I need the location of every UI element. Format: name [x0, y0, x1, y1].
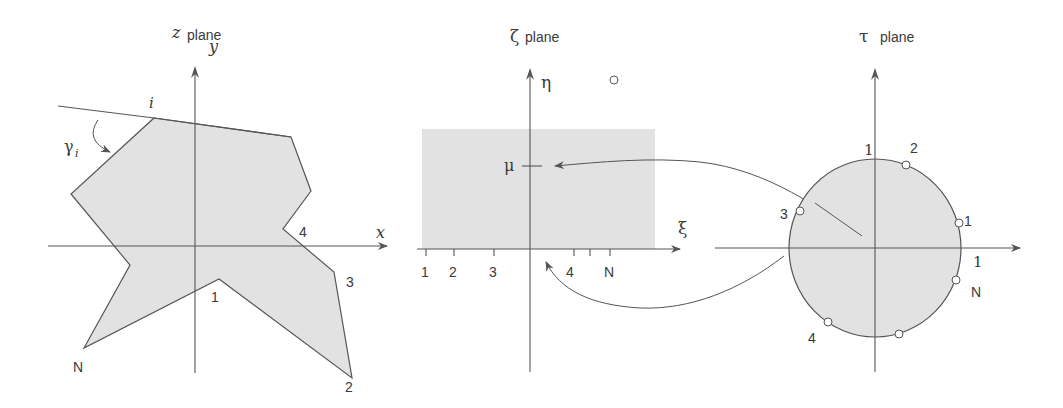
- z-plane-panel: z plane y x i γ i 1 2 3 4 N: [48, 23, 387, 395]
- eta-axis-label: η: [541, 72, 551, 92]
- tau-vertex-marker-4: [824, 318, 832, 326]
- polygon-region: [71, 118, 352, 378]
- tangent-line: [58, 106, 154, 118]
- unit-label-top: 1: [864, 141, 874, 159]
- tau-vertex-marker-1: [955, 219, 963, 227]
- unit-label-right: 1: [973, 253, 983, 271]
- zeta-tick-label-2: 2: [449, 264, 457, 280]
- mu-label: μ: [504, 156, 514, 175]
- z-vertex-2: 2: [345, 379, 353, 395]
- tau-vertex-marker-bottom: [895, 330, 903, 338]
- z-plane-symbol: z: [171, 23, 181, 42]
- tau-vertex-2: 2: [910, 140, 918, 156]
- conformal-map-diagram: z plane y x i γ i 1 2 3 4 N ζ plane: [0, 0, 1063, 408]
- angle-arc: [93, 120, 110, 152]
- y-axis-label: y: [208, 37, 219, 56]
- tau-vertex-N: N: [971, 284, 981, 300]
- tau-vertex-3: 3: [780, 206, 788, 222]
- map-arrow-boundary-to-origin: [546, 256, 784, 308]
- tau-vertex-marker-3: [796, 207, 804, 215]
- z-vertex-1: 1: [211, 289, 219, 305]
- z-vertex-3: 3: [346, 274, 354, 290]
- tau-vertex-1: 1: [964, 213, 972, 229]
- z-vertex-4: 4: [299, 224, 307, 240]
- gamma-subscript: i: [75, 147, 79, 160]
- tau-plane-panel: τ plane 1 1 1 2 3 4 N: [780, 26, 1020, 372]
- x-axis-label: x: [376, 223, 385, 242]
- tau-vertex-marker-2: [902, 161, 910, 169]
- zeta-plane-symbol: ζ: [510, 26, 519, 46]
- tau-plane-symbol: τ: [859, 26, 868, 46]
- zeta-tick-label-3: 3: [489, 264, 497, 280]
- point-at-infinity-marker: [610, 76, 618, 84]
- zeta-tick-label-4: 4: [566, 264, 574, 280]
- zeta-plane-title: plane: [525, 29, 559, 45]
- xi-axis-label: ξ: [678, 218, 687, 238]
- z-vertex-N: N: [73, 359, 83, 375]
- gamma-label: γ: [64, 137, 74, 156]
- tau-vertex-marker-N: [952, 276, 960, 284]
- tau-plane-title: plane: [880, 29, 914, 45]
- half-strip-region: [422, 129, 655, 249]
- zeta-tick-label-N: N: [604, 264, 614, 280]
- vertex-i-label: i: [149, 94, 154, 112]
- zeta-plane-panel: ζ plane η ξ μ 1 2 3 4 N: [417, 26, 687, 372]
- tau-vertex-4: 4: [808, 330, 816, 346]
- zeta-tick-label-1: 1: [421, 264, 429, 280]
